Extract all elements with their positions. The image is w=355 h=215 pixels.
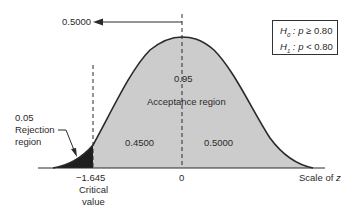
tick-critical: −1.645: [76, 172, 105, 183]
acceptance-area-value: 0.95: [174, 73, 193, 84]
right-half-area-value: 0.5000: [204, 137, 233, 148]
rejection-label-line2: region: [15, 136, 41, 147]
alternative-hypothesis: H1 : p < 0.80: [280, 41, 337, 57]
critical-label-line1: Critical: [79, 184, 108, 195]
axis-title-text: Scale of: [299, 172, 333, 183]
rejection-pointer: [58, 130, 74, 150]
arrow-value-label: 0.5000: [62, 16, 91, 27]
arrow-head-icon: [93, 19, 103, 26]
tick-zero: 0: [179, 172, 184, 183]
axis-variable: z: [336, 172, 341, 183]
rejection-area-value: 0.05: [15, 112, 34, 123]
acceptance-region-label: Acceptance region: [147, 96, 226, 107]
rejection-label-line1: Rejection: [15, 124, 55, 135]
pointer-head-icon: [71, 148, 77, 157]
critical-label-line2: value: [82, 196, 105, 207]
hypotheses-box: H0 : p ≥ 0.80 H1 : p < 0.80: [272, 20, 338, 55]
null-hypothesis: H0 : p ≥ 0.80: [280, 25, 337, 41]
axis-title: Scale of z: [299, 172, 341, 183]
left-half-area-value: 0.4500: [125, 137, 154, 148]
